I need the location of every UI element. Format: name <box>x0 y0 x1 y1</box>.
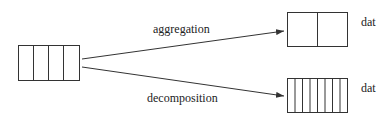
source-block <box>19 46 80 81</box>
decomposed-block <box>288 79 348 113</box>
target-label-top: dat <box>361 16 376 28</box>
decomposition-label: decomposition <box>147 92 218 104</box>
diagram-canvas: aggregation decomposition dat dat <box>0 0 379 117</box>
aggregation-label: aggregation <box>153 23 210 35</box>
aggregated-block <box>288 13 348 47</box>
target-label-bottom: dat <box>361 82 376 94</box>
